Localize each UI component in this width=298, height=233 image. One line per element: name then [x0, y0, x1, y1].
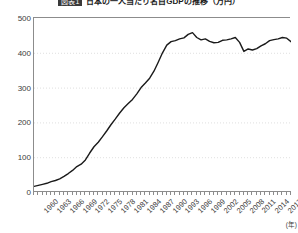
x-axis-tick [114, 192, 115, 195]
chart-title-badge: 図表1 [58, 0, 82, 6]
x-axis-tick [89, 192, 90, 195]
x-axis-tick [67, 192, 68, 195]
x-axis-tick [174, 192, 175, 195]
x-axis-tick [166, 192, 167, 195]
x-axis-tick-label: 1969 [80, 197, 98, 215]
x-axis-tick [97, 192, 98, 195]
y-axis-tick-label: 300 [18, 83, 31, 92]
x-axis-tick [106, 192, 107, 195]
x-axis-tick-label: 1981 [132, 197, 150, 215]
x-axis-tick-label: 1975 [106, 197, 124, 215]
x-axis-tick [140, 192, 141, 195]
y-axis-tick-label: 0 [27, 188, 31, 197]
x-axis-tick [123, 192, 124, 195]
x-axis-tick [256, 192, 257, 195]
x-axis-tick [281, 192, 282, 195]
x-axis-tick-label: 2005 [235, 197, 253, 215]
y-axis-tick-label: 100 [18, 153, 31, 162]
x-axis-tick-label: 1978 [119, 197, 137, 215]
x-axis-tick-label: 2014 [273, 197, 291, 215]
y-axis-tick-label: 400 [18, 48, 31, 57]
x-axis-tick-label: 1987 [158, 197, 176, 215]
x-axis-tick-label: 2002 [222, 197, 240, 215]
x-axis-unit-label: (年) [286, 219, 297, 229]
x-axis-tick-label: 1999 [209, 197, 227, 215]
x-axis-tick [93, 192, 94, 195]
x-axis-tick-label: 1966 [68, 197, 86, 215]
x-axis-tick [50, 192, 51, 195]
x-axis-tick [76, 192, 77, 195]
x-axis-tick [110, 192, 111, 195]
x-axis-tick [127, 192, 128, 195]
x-axis-tick [54, 192, 55, 195]
chart-title-text: 日本の一人当たり名目GDPの推移（万円） [86, 0, 239, 6]
x-axis-tick [63, 192, 64, 195]
x-axis-tick [42, 192, 43, 195]
x-axis-tick-label: 2011 [260, 197, 278, 215]
x-axis-tick-label: 2008 [247, 197, 265, 215]
x-axis-tick-label: 1990 [170, 197, 188, 215]
x-axis-tick [132, 192, 133, 195]
x-axis-tick [119, 192, 120, 195]
x-axis-tick [183, 192, 184, 195]
x-axis-tick [243, 192, 244, 195]
gdp-line-chart: 図表1 日本の一人当たり名目GDPの推移（万円） 010020030040050… [0, 0, 298, 233]
x-axis-tick [179, 192, 180, 195]
x-axis-tick [277, 192, 278, 195]
x-axis-tick [213, 192, 214, 195]
x-axis-tick-label: 1996 [196, 197, 214, 215]
x-axis-tick-label: 1960 [42, 197, 60, 215]
x-axis-tick-label: 1984 [145, 197, 163, 215]
x-axis-tick [221, 192, 222, 195]
plot-svg [34, 18, 291, 192]
x-axis-tick [80, 192, 81, 195]
x-axis-tick [157, 192, 158, 195]
x-axis-tick [290, 192, 291, 195]
x-axis-tick-label: 2017 [286, 197, 298, 215]
x-axis-tick [204, 192, 205, 195]
x-axis-tick-label: 1993 [183, 197, 201, 215]
x-axis-tick [37, 192, 38, 195]
x-axis-tick [260, 192, 261, 195]
x-axis-tick [234, 192, 235, 195]
x-axis-tick [72, 192, 73, 195]
x-axis-tick [170, 192, 171, 195]
x-axis-tick [46, 192, 47, 195]
x-axis-tick [84, 192, 85, 195]
x-axis-tick [144, 192, 145, 195]
x-axis-tick [102, 192, 103, 195]
x-axis-tick-label: 1972 [93, 197, 111, 215]
y-axis-tick-label: 500 [18, 14, 31, 23]
x-axis-tick [149, 192, 150, 195]
x-axis-tick [251, 192, 252, 195]
x-axis-tick [247, 192, 248, 195]
y-axis-tick-label: 200 [18, 118, 31, 127]
x-axis-tick [187, 192, 188, 195]
plot-area: 0100200300400500 [33, 17, 290, 191]
x-axis-tick [286, 192, 287, 195]
x-axis-tick [196, 192, 197, 195]
chart-title: 図表1 日本の一人当たり名目GDPの推移（万円） [0, 0, 298, 6]
x-axis-ticks [33, 192, 291, 196]
x-axis-tick [217, 192, 218, 195]
x-axis-tick [230, 192, 231, 195]
x-axis-tick [162, 192, 163, 195]
x-axis-tick [191, 192, 192, 195]
x-axis-tick [264, 192, 265, 195]
x-axis-tick [33, 192, 34, 195]
x-axis-tick [269, 192, 270, 195]
x-axis-tick [59, 192, 60, 195]
x-axis-tick [273, 192, 274, 195]
x-axis-tick [209, 192, 210, 195]
x-axis-tick-label: 1963 [55, 197, 73, 215]
x-axis-tick [153, 192, 154, 195]
x-axis-tick [226, 192, 227, 195]
x-axis-tick [239, 192, 240, 195]
x-axis-tick [136, 192, 137, 195]
series-line-gdp [34, 33, 291, 187]
x-axis-tick [200, 192, 201, 195]
